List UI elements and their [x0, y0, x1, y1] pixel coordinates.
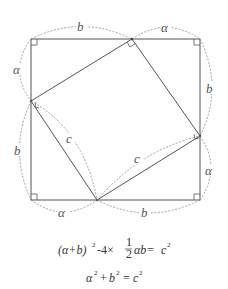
vertex-dots [30, 38, 201, 201]
exponent: 2 [167, 241, 171, 249]
exponent: 2 [92, 241, 96, 249]
corner-right-angle-markers [31, 39, 200, 200]
pythagorean-diagram: b α b α α b α b c c (α+b) 2 -4× 1 2 αb= … [0, 0, 228, 289]
label-hyp-bottom-c: c [134, 151, 140, 166]
dashed-arcs [20, 27, 213, 214]
label-top-left-b: b [77, 19, 84, 34]
label-right-top-b: b [206, 81, 213, 96]
formula-equals: = [123, 271, 130, 285]
formula-ab-equals: αb= [134, 243, 154, 257]
exponent: 2 [139, 269, 143, 277]
formula-minus-four-times: -4× [97, 243, 114, 257]
label-left-bottom-b: b [14, 143, 21, 158]
formula-line-2: α 2 + b 2 = c 2 [86, 269, 143, 285]
inner-square [31, 39, 200, 200]
exponent: 2 [94, 269, 98, 277]
label-hyp-left-c: c [66, 131, 72, 146]
label-right-bottom-a: α [205, 163, 213, 178]
formula-a: α [86, 271, 93, 285]
fraction-denominator: 2 [126, 247, 132, 261]
formula-line-1: (α+b) 2 -4× 1 2 αb= c 2 [58, 235, 171, 261]
label-bottom-left-a: α [58, 205, 66, 220]
formula-plus: + [100, 271, 107, 285]
label-top-right-a: α [161, 20, 169, 35]
formula-b: b [109, 271, 115, 285]
formula-a-plus-b: (α+b) [58, 243, 86, 257]
outer-square [31, 39, 200, 200]
inner-right-angle-markers [35, 42, 199, 139]
exponent: 2 [116, 269, 120, 277]
label-bottom-right-b: b [141, 205, 148, 220]
label-left-top-a: α [13, 62, 21, 77]
